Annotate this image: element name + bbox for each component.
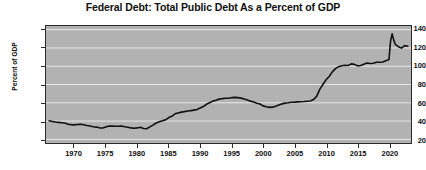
x-tick-label: 2015	[338, 149, 378, 158]
x-tick-mark	[105, 144, 106, 148]
x-tick-label: 1970	[53, 149, 93, 158]
x-tick-label: 1980	[117, 149, 157, 158]
x-tick-mark	[295, 144, 296, 148]
gridlines	[46, 30, 411, 140]
plot-area	[45, 25, 412, 144]
x-tick-mark	[327, 144, 328, 148]
x-tick-mark	[168, 144, 169, 148]
x-tick-label: 2010	[307, 149, 347, 158]
x-tick-mark	[73, 144, 74, 148]
chart-container: Federal Debt: Total Public Debt As a Per…	[0, 0, 426, 170]
chart-title: Federal Debt: Total Public Debt As a Per…	[0, 1, 426, 13]
x-tick-label: 1990	[180, 149, 220, 158]
x-tick-mark	[358, 144, 359, 148]
y-axis-label: Percent of GDP	[11, 32, 18, 102]
x-tick-label: 1975	[85, 149, 125, 158]
x-tick-mark	[390, 144, 391, 148]
x-tick-label: 2005	[275, 149, 315, 158]
x-tick-mark	[232, 144, 233, 148]
x-tick-label: 2000	[243, 149, 283, 158]
x-tick-label: 1985	[148, 149, 188, 158]
x-tick-mark	[263, 144, 264, 148]
x-tick-mark	[137, 144, 138, 148]
x-tick-mark	[200, 144, 201, 148]
plot-svg	[46, 26, 411, 143]
x-tick-label: 2020	[370, 149, 410, 158]
x-tick-label: 1995	[212, 149, 252, 158]
